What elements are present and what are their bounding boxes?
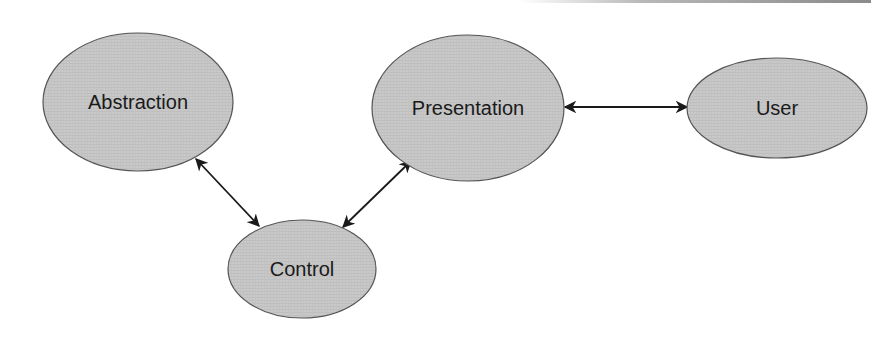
node-abstraction (43, 33, 233, 171)
nodes-group (43, 33, 867, 318)
node-user (687, 58, 867, 158)
arrow-abstraction-control (196, 159, 259, 226)
pac-diagram (0, 0, 871, 342)
node-control (228, 220, 376, 318)
node-presentation (372, 35, 564, 181)
arrow-presentation-control (343, 161, 411, 227)
